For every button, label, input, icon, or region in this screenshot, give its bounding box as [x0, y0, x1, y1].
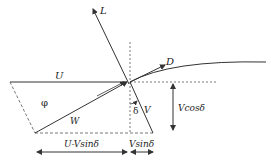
- label-delta: δ: [133, 106, 138, 116]
- label-drag: D: [165, 56, 174, 67]
- label-vsin: Vsinδ: [129, 139, 154, 149]
- lift-vector: [93, 9, 129, 84]
- label-u-minus: U-Vsinδ: [64, 139, 99, 149]
- label-u: U: [55, 70, 64, 81]
- label-phi: φ: [41, 97, 48, 108]
- left-dashed: [10, 82, 35, 133]
- label-lift: L: [99, 5, 107, 16]
- velocity-diagram: L D U φ W δ V Vcosδ U-Vsinδ Vsinδ: [0, 0, 271, 161]
- w-parallel-arrow: [97, 82, 124, 96]
- w-vector: [35, 82, 127, 133]
- label-v: V: [144, 105, 152, 115]
- label-w: W: [70, 116, 80, 126]
- delta-arc: [130, 101, 137, 104]
- label-vcos: Vcosδ: [178, 103, 205, 113]
